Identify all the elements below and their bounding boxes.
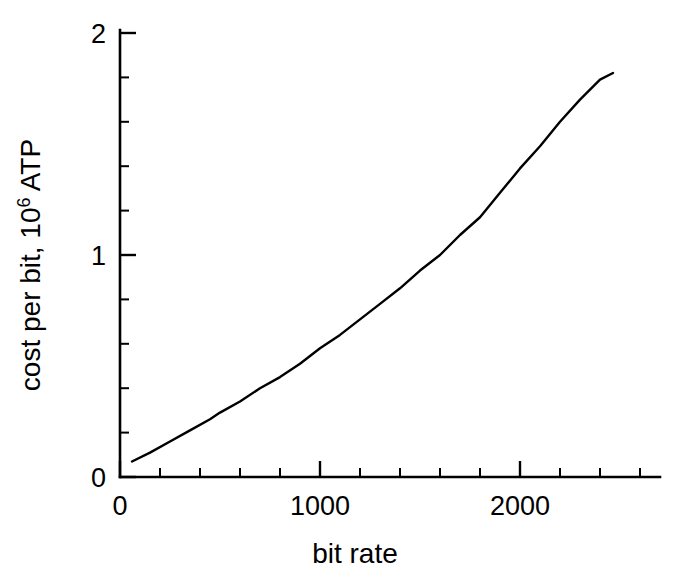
y-tick-label: 1 — [91, 241, 106, 271]
y-axis-title-tail: ATP — [15, 139, 46, 198]
y-axis-title-main: cost per bit, 10 — [15, 207, 46, 391]
y-axis-title-group: cost per bit, 106 ATP — [14, 139, 46, 391]
y-axis-title: cost per bit, 106 ATP — [14, 139, 46, 391]
x-tick-label: 1000 — [290, 491, 350, 521]
y-tick-label: 2 — [91, 19, 106, 49]
x-tick-label: 0 — [112, 491, 127, 521]
y-axis-title-superscript: 6 — [14, 197, 34, 207]
y-tick-label: 0 — [91, 463, 106, 493]
x-tick-label: 2000 — [490, 491, 550, 521]
chart-figure: 012 010002000 bit rate cost per bit, 106… — [0, 0, 680, 580]
chart-canvas: 012 010002000 bit rate cost per bit, 106… — [0, 0, 680, 580]
x-axis-title: bit rate — [312, 538, 398, 569]
